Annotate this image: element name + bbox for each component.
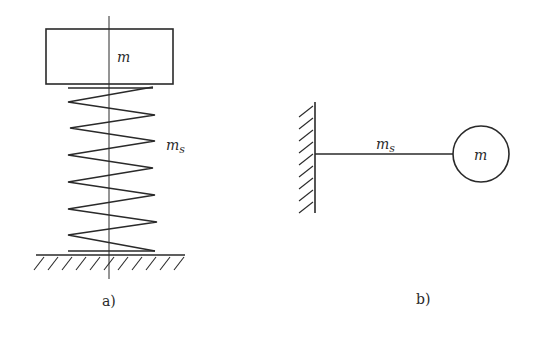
- mass-label-a: m: [117, 49, 130, 65]
- caption-a: a): [102, 293, 116, 309]
- spring: [68, 87, 157, 251]
- wall-hatch: [299, 106, 313, 213]
- figure-a: [34, 16, 185, 279]
- spring-mass-label-a: ms: [166, 137, 185, 156]
- rod-mass-label-b: ms: [376, 136, 395, 155]
- mass-label-b: m: [474, 147, 487, 163]
- caption-b: b): [416, 291, 430, 307]
- diagram-canvas: m ms a) ms m b): [0, 0, 541, 339]
